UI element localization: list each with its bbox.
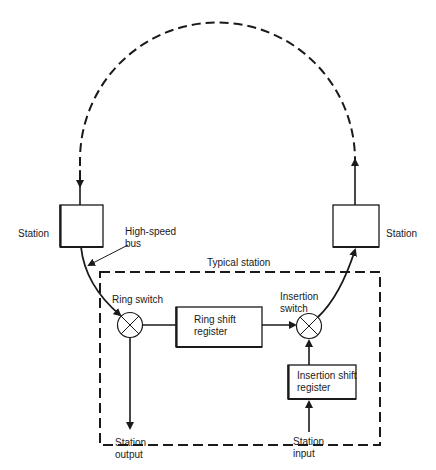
right-station-label: Station: [386, 228, 417, 240]
ring-network-diagram: [0, 0, 436, 470]
insertion-switch-to-right-station: [318, 250, 355, 317]
typical-station-label: Typical station: [207, 257, 270, 269]
insertion-shift-register-label: Insertion shift register: [297, 370, 356, 394]
high-speed-bus-label: High-speed bus: [125, 226, 176, 250]
ring-dashed-arc: [80, 22, 355, 180]
ring-switch-label: Ring switch: [112, 294, 163, 306]
station-output-label: Station output: [115, 437, 146, 461]
left-station-box: [60, 205, 103, 247]
ring-switch-symbol: [118, 313, 143, 338]
right-station-box: [333, 205, 379, 247]
ring-shift-register-label: Ring shift register: [194, 314, 236, 338]
left-station-label: Station: [18, 228, 49, 240]
insertion-switch-label: Insertion switch: [280, 291, 318, 315]
station-input-label: Station input: [293, 436, 324, 460]
insertion-switch-symbol: [297, 314, 322, 339]
